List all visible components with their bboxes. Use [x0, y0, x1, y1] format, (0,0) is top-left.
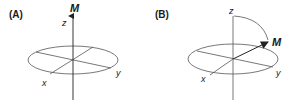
m-vector-arrow [233, 42, 268, 59]
tip-arc [234, 16, 268, 40]
x-axis-label: x [200, 74, 206, 84]
m-vector-label: M [272, 36, 282, 48]
y-axis-label: y [275, 68, 281, 78]
x-axis-label: x [41, 78, 47, 88]
y-axis-label: y [115, 68, 121, 78]
z-axis-label: z [61, 18, 67, 28]
z-axis-label: z [228, 6, 234, 16]
m-vector-label: M [70, 2, 80, 14]
panel-b: (B) M z x y [155, 6, 282, 100]
panel-a-label: (A) [9, 9, 23, 20]
panel-a: (A) M z x y [9, 2, 121, 100]
panel-b-label: (B) [155, 9, 169, 20]
y-axis-line [197, 51, 273, 67]
diagram-canvas: (A) M z x y (B) M z x y [0, 0, 301, 109]
x-axis-line [50, 47, 93, 74]
y-axis-line [36, 52, 111, 68]
x-axis-line [210, 59, 233, 75]
